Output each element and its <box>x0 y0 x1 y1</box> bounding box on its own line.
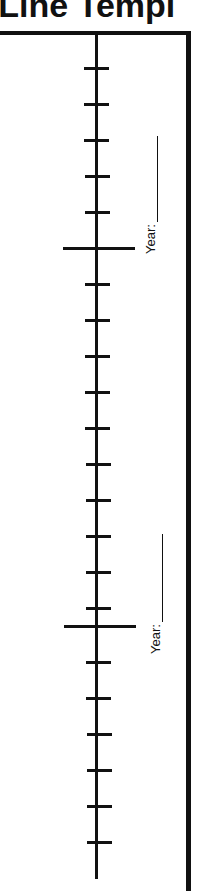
minor-tick <box>85 427 110 430</box>
minor-tick <box>86 499 111 502</box>
minor-tick <box>85 391 110 394</box>
page-title: e Line Templ <box>0 0 175 25</box>
year-label: Year: <box>143 224 158 254</box>
minor-tick <box>84 103 109 106</box>
timeline-axis <box>95 33 98 879</box>
minor-tick <box>84 67 109 70</box>
minor-tick <box>85 319 110 322</box>
minor-tick <box>87 841 112 844</box>
minor-tick <box>86 697 111 700</box>
major-tick <box>64 625 136 628</box>
minor-tick <box>87 805 112 808</box>
year-blank-line[interactable] <box>150 534 163 622</box>
year-field-1[interactable]: Year: <box>143 136 158 254</box>
minor-tick <box>86 661 111 664</box>
minor-tick <box>86 571 111 574</box>
minor-tick <box>85 283 110 286</box>
minor-tick <box>86 535 111 538</box>
year-label: Year: <box>148 624 163 654</box>
year-field-2[interactable]: Year: <box>148 534 163 654</box>
minor-tick <box>87 769 112 772</box>
minor-tick <box>85 211 110 214</box>
minor-tick <box>84 139 109 142</box>
minor-tick <box>87 733 112 736</box>
minor-tick <box>86 463 111 466</box>
year-blank-line[interactable] <box>145 136 158 222</box>
minor-tick <box>85 355 110 358</box>
major-tick <box>63 247 135 250</box>
minor-tick <box>85 175 110 178</box>
minor-tick <box>86 607 111 610</box>
